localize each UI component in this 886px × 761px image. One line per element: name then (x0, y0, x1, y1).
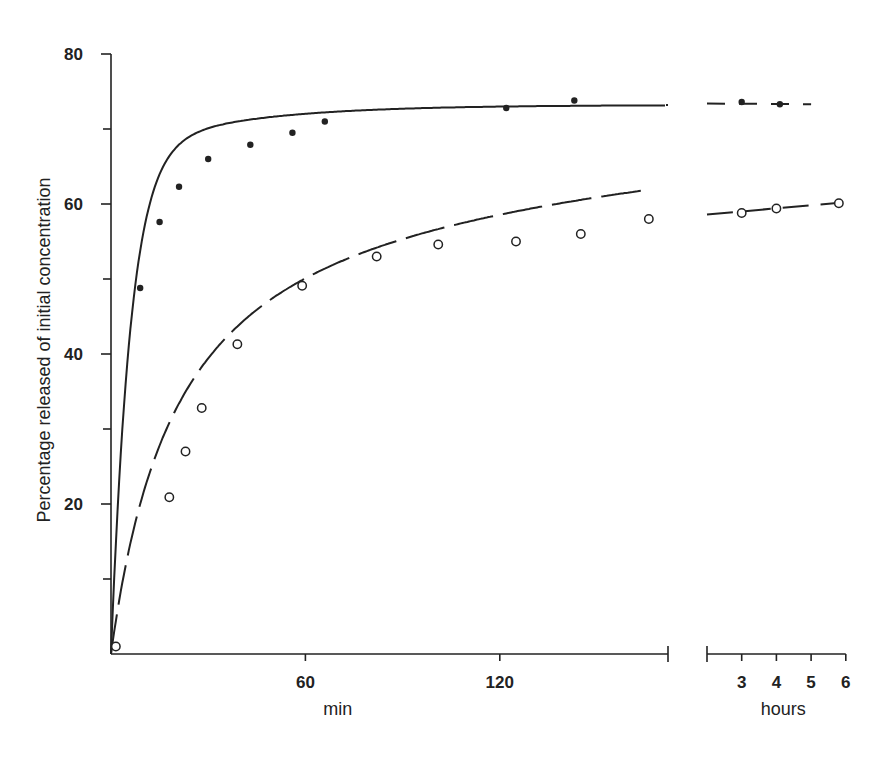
open-data-point (233, 340, 241, 348)
open-data-point (434, 240, 442, 248)
x-axis-title-hours: hours (761, 699, 806, 719)
open-data-point (372, 252, 380, 260)
y-tick-label: 20 (64, 495, 83, 514)
filled-data-point (503, 105, 509, 111)
open-data-point (772, 204, 780, 212)
x-tick-label-hours: 4 (772, 673, 782, 692)
axis-labels: 20406080601203456minhoursPercentage rele… (34, 45, 851, 719)
open-data-point (112, 642, 120, 650)
y-tick-label: 60 (64, 195, 83, 214)
filled-data-point (739, 99, 745, 105)
open-data-point (298, 282, 306, 290)
filled-data-point (571, 97, 577, 103)
filled-data-point (289, 130, 295, 136)
x-tick-label: 60 (296, 673, 315, 692)
y-tick-label: 80 (64, 45, 83, 64)
filled-data-point (137, 285, 143, 291)
open-data-point (512, 237, 520, 245)
open-data-point (577, 230, 585, 238)
filled-data-point (205, 156, 211, 162)
axes (101, 54, 846, 662)
filled-data-point (247, 142, 253, 148)
release-chart: 20406080601203456minhoursPercentage rele… (0, 0, 886, 761)
open-data-point (165, 493, 173, 501)
fitted-curves (111, 104, 842, 655)
curve-filled-hours (707, 104, 811, 105)
open-data-point (645, 215, 653, 223)
filled-data-point (176, 184, 182, 190)
open-data-point (181, 447, 189, 455)
filled-data-point (156, 219, 162, 225)
x-axis-title-min: min (323, 699, 352, 719)
data-points (112, 97, 843, 650)
x-tick-label: 120 (486, 673, 514, 692)
y-tick-label: 40 (64, 345, 83, 364)
y-axis-title: Percentage released of initial concentra… (34, 177, 54, 522)
x-tick-label-hours: 3 (737, 673, 746, 692)
filled-data-point (322, 118, 328, 124)
x-tick-label-hours: 5 (806, 673, 815, 692)
open-data-point (198, 404, 206, 412)
x-tick-label-hours: 6 (841, 673, 850, 692)
open-data-point (835, 199, 843, 207)
filled-data-point (777, 101, 783, 107)
open-data-point (738, 209, 746, 217)
